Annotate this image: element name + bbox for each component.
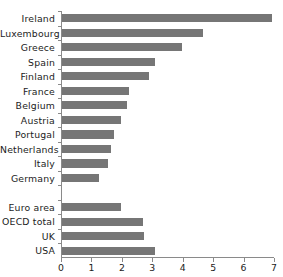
category-label: Belgium	[0, 98, 58, 113]
category-axis-labels: IrelandLuxembourgGreeceSpainFinlandFranc…	[0, 11, 58, 258]
category-tick	[58, 142, 61, 143]
category-label: Austria	[0, 113, 58, 128]
bar-row	[61, 11, 274, 26]
bar-row	[61, 156, 274, 171]
category-label: Italy	[0, 156, 58, 171]
bar	[62, 72, 149, 80]
category-label: Ireland	[0, 11, 58, 26]
category-label: Netherlands	[0, 142, 58, 157]
bar-row	[61, 214, 274, 229]
category-tick	[58, 229, 61, 230]
bar-row	[61, 127, 274, 142]
bar	[62, 29, 203, 37]
bar	[62, 14, 272, 22]
category-tick	[58, 200, 61, 201]
value-axis-tick-labels: 01234567	[61, 262, 274, 276]
bar	[62, 43, 182, 51]
value-tick-label: 2	[112, 262, 132, 273]
category-tick	[58, 156, 61, 157]
bar	[62, 203, 121, 211]
bar	[62, 130, 114, 138]
category-tick	[58, 11, 61, 12]
category-tick	[58, 40, 61, 41]
bar-row	[61, 142, 274, 157]
category-tick	[58, 26, 61, 27]
bar-row	[61, 69, 274, 84]
category-label: Finland	[0, 69, 58, 84]
bar	[62, 218, 143, 226]
bar	[62, 87, 129, 95]
bar-row	[61, 229, 274, 244]
bar-row	[61, 171, 274, 186]
bar-row	[61, 26, 274, 41]
bar	[62, 101, 127, 109]
category-label: Euro area	[0, 200, 58, 215]
value-tick-label: 6	[234, 262, 254, 273]
value-tick-label: 0	[51, 262, 71, 273]
category-label: Portugal	[0, 127, 58, 142]
category-label: Spain	[0, 55, 58, 70]
category-tick	[58, 113, 61, 114]
value-tick-label: 7	[264, 262, 283, 273]
bar-row	[61, 113, 274, 128]
category-label: OECD total	[0, 214, 58, 229]
category-label: UK	[0, 229, 58, 244]
category-tick	[58, 214, 61, 215]
category-tick	[58, 185, 61, 186]
category-label: Luxembourg	[0, 26, 58, 41]
bar-row	[61, 84, 274, 99]
bar-row	[61, 40, 274, 55]
value-tick-label: 4	[173, 262, 193, 273]
category-label: USA	[0, 243, 58, 258]
category-label: France	[0, 84, 58, 99]
bar	[62, 232, 144, 240]
bar	[62, 174, 99, 182]
bar-row	[61, 200, 274, 215]
category-tick	[58, 127, 61, 128]
plot-area	[61, 11, 274, 258]
bar	[62, 159, 108, 167]
bar	[62, 58, 155, 66]
group-separator-row	[61, 185, 274, 200]
value-tick-label: 5	[203, 262, 223, 273]
bar	[62, 145, 111, 153]
value-tick-label: 1	[81, 262, 101, 273]
category-label: Greece	[0, 40, 58, 55]
bar	[62, 116, 121, 124]
bar-row	[61, 98, 274, 113]
category-label: Germany	[0, 171, 58, 186]
bar-chart: IrelandLuxembourgGreeceSpainFinlandFranc…	[0, 0, 283, 277]
bar	[62, 247, 155, 255]
bar-row	[61, 55, 274, 70]
category-tick	[58, 98, 61, 99]
category-tick	[58, 171, 61, 172]
category-tick	[58, 84, 61, 85]
value-tick-label: 3	[142, 262, 162, 273]
category-tick	[58, 243, 61, 244]
category-tick	[58, 55, 61, 56]
category-tick	[58, 69, 61, 70]
